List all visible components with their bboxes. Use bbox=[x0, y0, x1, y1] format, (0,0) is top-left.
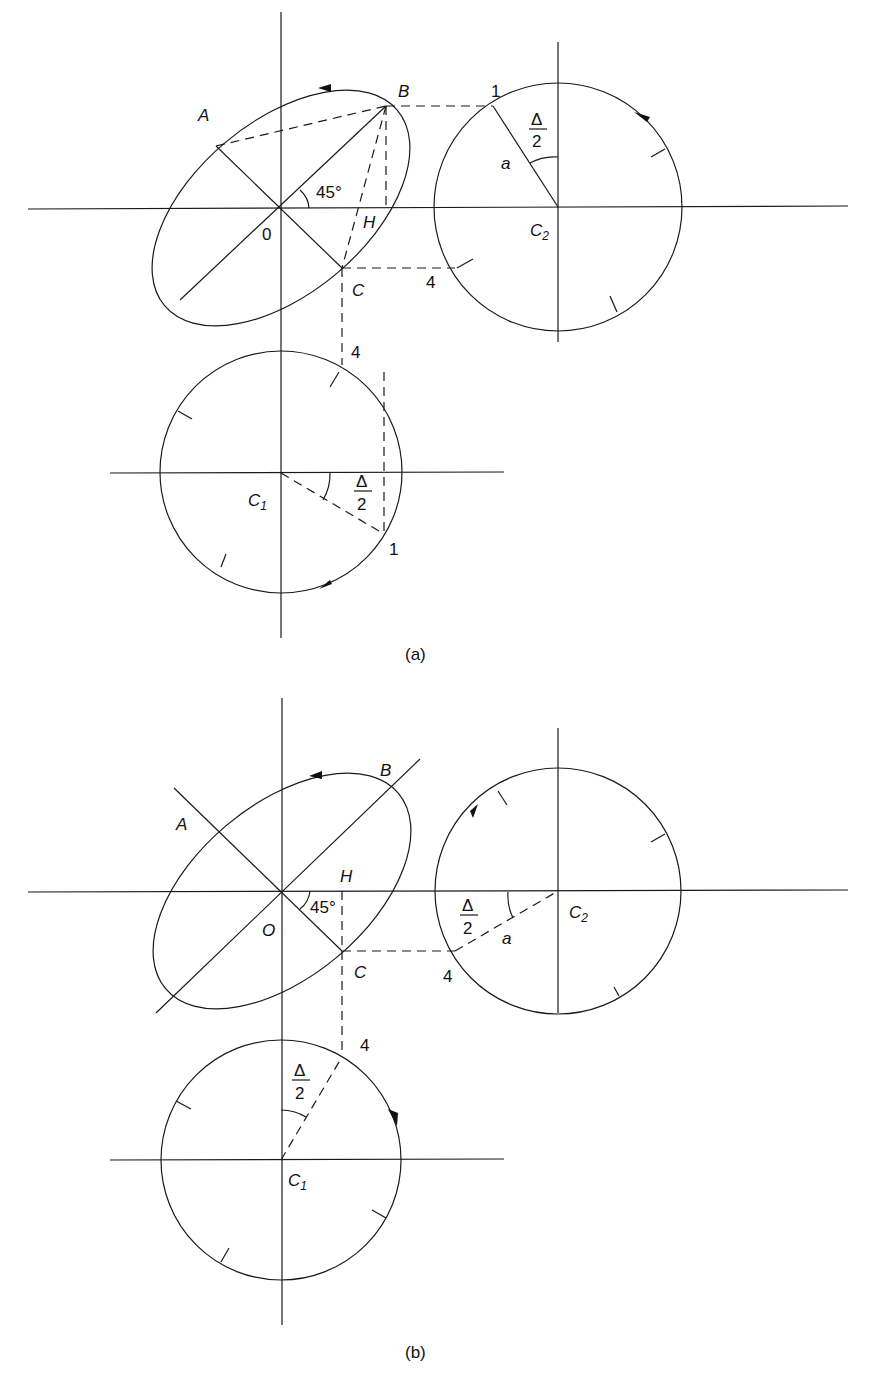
minor-axis-line bbox=[174, 788, 342, 951]
circle-c1 bbox=[110, 1040, 504, 1280]
rotation-arrow-icon bbox=[634, 112, 650, 122]
label-C2: C2 bbox=[569, 903, 588, 925]
label-C: C bbox=[354, 963, 367, 982]
dashed-BC bbox=[342, 106, 386, 268]
label-a: a bbox=[501, 154, 510, 173]
minor-axis-line bbox=[216, 146, 342, 268]
label-A: A bbox=[197, 106, 209, 125]
label-delta-den-c1: 2 bbox=[295, 1084, 304, 1103]
caption-a: (a) bbox=[405, 645, 426, 664]
label-C1: C1 bbox=[288, 1171, 307, 1193]
label-A: A bbox=[175, 815, 187, 834]
label-delta-den-c1: 2 bbox=[357, 495, 366, 514]
rotation-arrow-icon bbox=[388, 1109, 398, 1126]
circle-c2 bbox=[435, 728, 681, 1014]
angle-arc bbox=[300, 190, 309, 208]
horizontal-axis bbox=[28, 890, 848, 892]
label-point-4-c2: 4 bbox=[443, 967, 452, 986]
label-point-1: 1 bbox=[491, 82, 500, 101]
label-B: B bbox=[398, 82, 409, 101]
dashed-AB bbox=[216, 106, 386, 146]
label-a: a bbox=[502, 929, 511, 948]
label-B: B bbox=[380, 761, 391, 780]
label-H: H bbox=[340, 867, 353, 886]
label-H: H bbox=[363, 213, 376, 232]
label-delta-num-c1: Δ bbox=[356, 472, 367, 491]
polarization-diagram: A B 45° H 0 C 1 Δ 2 a C2 4 4 C1 Δ 2 1 (a… bbox=[0, 0, 869, 1378]
caption-b: (b) bbox=[405, 1343, 426, 1362]
label-delta-num: Δ bbox=[531, 110, 542, 129]
label-delta-den: 2 bbox=[463, 919, 472, 938]
label-C2: C2 bbox=[530, 221, 549, 243]
label-delta-num: Δ bbox=[462, 896, 473, 915]
rotation-arrow-icon bbox=[318, 84, 331, 92]
label-C1: C1 bbox=[248, 491, 267, 513]
label-angle: 45° bbox=[310, 898, 336, 917]
circle-c2 bbox=[434, 42, 682, 342]
label-delta-den: 2 bbox=[532, 132, 541, 151]
major-axis-line bbox=[180, 106, 386, 300]
rotation-arrow-icon bbox=[319, 580, 332, 589]
label-angle: 45° bbox=[316, 183, 342, 202]
major-axis-line bbox=[156, 759, 420, 1013]
angle-arc bbox=[300, 891, 310, 909]
horizontal-axis bbox=[28, 206, 848, 209]
label-delta-num-c1: Δ bbox=[294, 1061, 305, 1080]
rotation-arrow-icon bbox=[470, 804, 478, 818]
panel-a: A B 45° H 0 C 1 Δ 2 a C2 4 4 C1 Δ 2 1 (a… bbox=[28, 12, 848, 664]
panel-b: A B H 45° O C Δ 2 a C2 4 4 Δ 2 C1 (b) bbox=[28, 698, 848, 1362]
dashed-radius bbox=[281, 473, 384, 534]
label-point-4-c1: 4 bbox=[360, 1036, 369, 1055]
label-point-1-c1: 1 bbox=[389, 540, 398, 559]
label-point-4-c1: 4 bbox=[351, 343, 360, 362]
label-origin: 0 bbox=[262, 225, 271, 244]
circle-c1 bbox=[110, 351, 504, 593]
dashed-radius bbox=[281, 1057, 342, 1160]
label-origin: O bbox=[262, 921, 275, 940]
label-point-4-c2: 4 bbox=[426, 273, 435, 292]
label-C: C bbox=[352, 281, 365, 300]
